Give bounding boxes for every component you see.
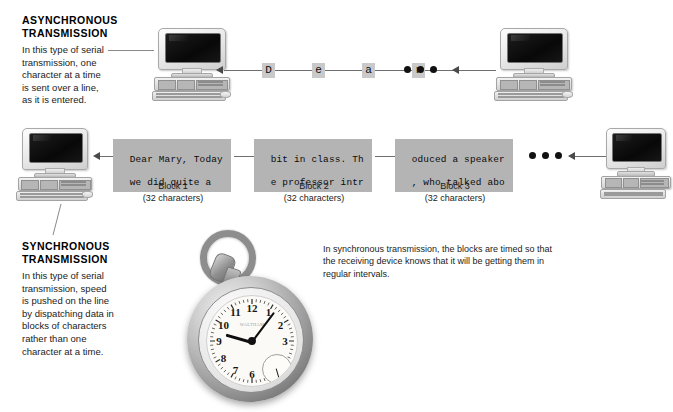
- ellipsis-dot: [417, 66, 424, 73]
- block-3-label: Block 3: [395, 180, 515, 192]
- sync-heading: SYNCHRONOUS TRANSMISSION: [22, 240, 152, 265]
- monitor-screen: [612, 133, 662, 162]
- watch-seconds-subdial: [262, 354, 292, 384]
- sync-description: In this type of serial transmission, spe…: [22, 270, 114, 358]
- block-2-line1: bit in class. Th: [271, 154, 364, 165]
- mouse: [82, 191, 92, 198]
- monitor-screen: [165, 33, 221, 63]
- block-3-caption: Block 3 (32 characters): [395, 180, 515, 204]
- async-line-right: [459, 70, 495, 71]
- keyboard: [152, 91, 226, 101]
- block-1-sublabel: (32 characters): [113, 192, 233, 204]
- block-3-sublabel: (32 characters): [395, 192, 515, 204]
- block-2-sublabel: (32 characters): [254, 192, 374, 204]
- sync-line-3: [375, 156, 397, 157]
- async-leader-line: [108, 50, 154, 51]
- block-2-label: Block 2: [254, 180, 374, 192]
- watch-numeral: 6: [244, 368, 260, 380]
- ellipsis-dot: [555, 152, 562, 159]
- computer-sync-left: [16, 128, 92, 200]
- keyboard: [600, 189, 666, 199]
- computer-case: [18, 177, 93, 191]
- async-arrowhead-icon: [216, 66, 223, 74]
- char-tile: e: [312, 63, 325, 78]
- sync-line-1: [100, 156, 114, 157]
- monitor-screen: [507, 33, 563, 63]
- sync-arrowhead-right-icon: [568, 152, 575, 160]
- sync-leader-line: [46, 203, 66, 237]
- pocket-watch-illustration: WALTHAM 121234567891011: [182, 228, 322, 408]
- char-tile: D: [262, 63, 275, 78]
- mouse: [220, 91, 231, 98]
- monitor-bezel: [22, 128, 88, 170]
- keyboard: [494, 91, 568, 101]
- async-heading: ASYNCHRONOUS TRANSMISSION: [22, 14, 152, 39]
- sync-ellipsis-dots-group: [529, 152, 562, 159]
- watch-numeral: 11: [228, 306, 244, 318]
- watch-dial: WALTHAM 121234567891011: [206, 295, 298, 387]
- watch-numeral: 9: [211, 335, 227, 347]
- monitor-bezel: [606, 128, 667, 169]
- async-heading-line2: TRANSMISSION: [22, 27, 152, 40]
- keyboard: [16, 191, 88, 201]
- monitor-bezel: [500, 28, 568, 70]
- watch-numeral: 8: [215, 352, 231, 364]
- watch-seconds-hand: [275, 369, 279, 380]
- async-heading-line1: ASYNCHRONOUS: [22, 14, 152, 27]
- watch-bezel: WALTHAM 121234567891011: [198, 287, 304, 393]
- ellipsis-dot: [404, 66, 411, 73]
- computer-async-right: [494, 28, 572, 100]
- block-2-caption: Block 2 (32 characters): [254, 180, 374, 204]
- async-arrowhead-right-icon: [452, 66, 459, 74]
- watch-caption: In synchronous transmission, the blocks …: [323, 243, 559, 280]
- block-1-line1: Dear Mary, Today: [130, 154, 223, 165]
- ellipsis-dot: [529, 152, 536, 159]
- async-description: In this type of serial transmission, one…: [22, 44, 108, 107]
- async-ellipsis-dots-group: [404, 66, 437, 73]
- sync-heading-line2: TRANSMISSION: [22, 253, 152, 266]
- watch-brand-text: WALTHAM: [240, 322, 265, 327]
- watch-case: WALTHAM 121234567891011: [187, 276, 313, 402]
- block-1-label: Block 1: [113, 180, 233, 192]
- computer-case: [496, 77, 573, 91]
- block-3-line1: oduced a speaker: [412, 154, 505, 165]
- sync-line-2: [234, 156, 256, 157]
- computer-case: [601, 176, 670, 190]
- ellipsis-dot: [542, 152, 549, 159]
- block-1-caption: Block 1 (32 characters): [113, 180, 233, 204]
- watch-numeral: 10: [215, 319, 231, 331]
- ellipsis-dot: [430, 66, 437, 73]
- sync-arrowhead-left-icon: [93, 152, 100, 160]
- monitor-screen: [29, 133, 83, 163]
- mouse: [562, 91, 573, 98]
- sync-heading-line1: SYNCHRONOUS: [22, 240, 152, 253]
- watch-numeral: 2: [273, 319, 289, 331]
- watch-hand-cap: [248, 337, 256, 345]
- watch-numeral: 12: [244, 302, 260, 314]
- computer-sync-right: [600, 128, 670, 198]
- watch-numeral: 3: [277, 335, 293, 347]
- char-tile: a: [362, 63, 375, 78]
- watch-numeral: 7: [228, 364, 244, 376]
